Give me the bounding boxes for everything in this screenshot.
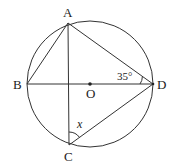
label-a: A (63, 5, 73, 20)
angle-arc-d (140, 76, 142, 84)
segment-cd (69, 84, 153, 145)
angle-arc-c (69, 132, 80, 137)
segment-ad (68, 23, 153, 84)
angle-label-x: x (76, 117, 83, 131)
label-o: O (86, 86, 95, 101)
label-d: D (157, 77, 166, 92)
segment-ab (27, 23, 68, 84)
angle-label-35: 35° (117, 70, 132, 82)
point-d (152, 83, 155, 86)
label-c: C (64, 149, 73, 164)
label-b: B (13, 77, 22, 92)
geometry-diagram: A B C D O 35° x (0, 0, 176, 167)
